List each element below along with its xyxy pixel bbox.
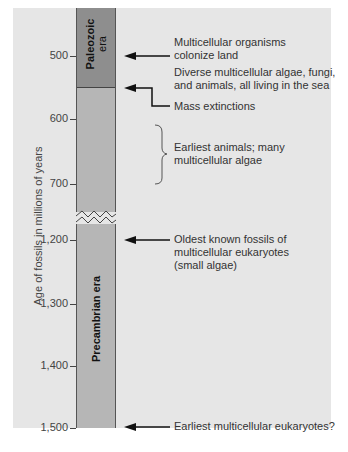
annotation-land-line2: colonize land [174,49,286,62]
annotation-oldest-fossils-line2: multicellular eukaryotes [174,246,289,259]
annotation-land-line1: Multicellular organisms [174,36,286,49]
annotation-oldest-fossils-line1: Oldest known fossils of [174,233,289,246]
arrow-extinctions-icon [124,84,170,106]
annotation-earliest-animals-line1: Earliest animals; many [174,141,285,154]
brace-icon [155,125,167,184]
annotation-earliest-animals-line2: multicellular algae [174,154,285,167]
annotation-diverse: Diverse multicellular algae, fungi, and … [174,66,335,92]
annotation-oldest-fossils-line3: (small algae) [174,259,289,272]
annotation-diverse-line1: Diverse multicellular algae, fungi, [174,66,335,79]
annotation-oldest-fossils: Oldest known fossils of multicellular eu… [174,233,289,272]
annotation-earliest-eukaryotes: Earliest multicellular eukaryotes? [174,420,335,433]
arrow-oldest-fossils-icon [124,236,170,244]
scale-break-icon [76,211,116,224]
annotation-diverse-line2: and animals, all living in the sea [174,79,335,92]
arrow-land-icon [124,52,170,60]
arrow-earliest-eukaryotes-icon [124,423,170,431]
annotation-earliest-animals: Earliest animals; many multicellular alg… [174,141,285,167]
annotation-land: Multicellular organisms colonize land [174,36,286,62]
annotation-extinctions: Mass extinctions [174,100,255,113]
